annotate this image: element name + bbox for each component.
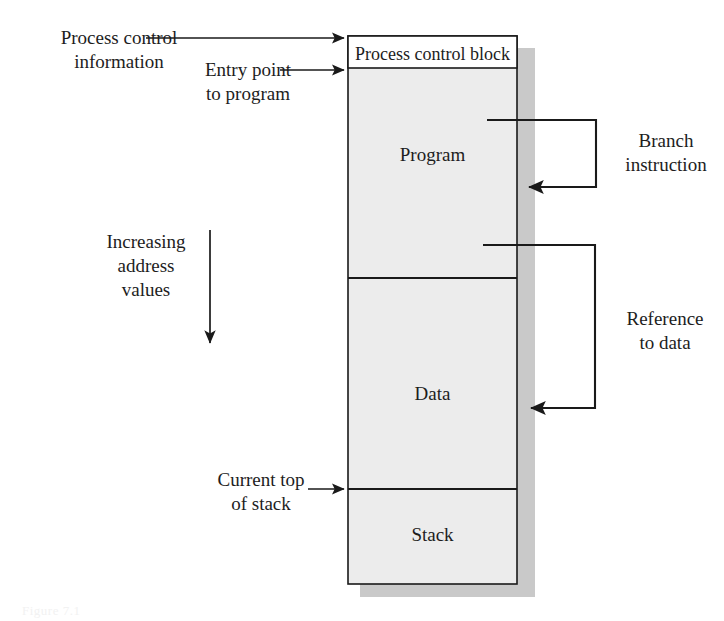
segment-label-program: Program xyxy=(348,144,517,166)
figure-caption: Figure 7.1 xyxy=(22,603,80,619)
memory-block-body xyxy=(348,36,517,584)
segment-label-data: Data xyxy=(348,383,517,405)
callout-label-increasing-address-values: Increasing address values xyxy=(82,230,210,302)
callout-label-reference-to-data: Reference to data xyxy=(610,307,720,355)
callout-label-current-top-of-stack: Current top of stack xyxy=(186,468,336,516)
segment-label-process-control-block: Process control block xyxy=(348,43,517,65)
callout-label-entry-point-to-program: Entry point to program xyxy=(168,58,328,106)
process-image-figure: Process control information Entry point … xyxy=(0,0,724,621)
callout-label-branch-instruction: Branch instruction xyxy=(612,129,720,177)
segment-label-stack: Stack xyxy=(348,524,517,546)
